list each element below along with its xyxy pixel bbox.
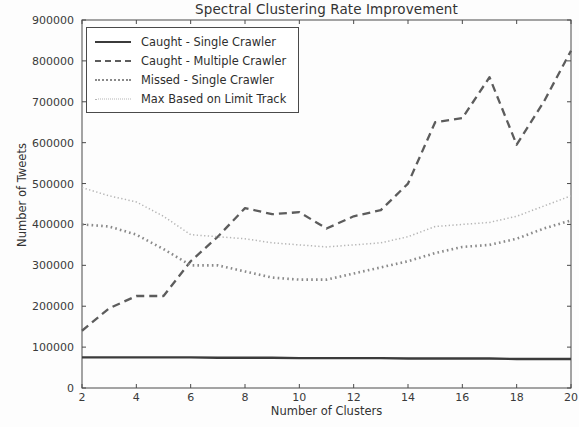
- legend-label: Missed - Single Crawler: [141, 73, 274, 87]
- legend-item: Max Based on Limit Track: [93, 89, 292, 108]
- chart-legend: Caught - Single CrawlerCaught - Multiple…: [86, 27, 299, 113]
- series-line: [82, 357, 571, 359]
- legend-line-sample-icon: [93, 92, 133, 106]
- legend-line-sample-icon: [93, 35, 133, 49]
- legend-label: Caught - Multiple Crawler: [141, 54, 286, 68]
- legend-line-sample-icon: [93, 73, 133, 87]
- legend-item: Caught - Multiple Crawler: [93, 51, 292, 70]
- legend-item: Missed - Single Crawler: [93, 70, 292, 89]
- legend-label: Caught - Single Crawler: [141, 35, 276, 49]
- legend-line-sample-icon: [93, 54, 133, 68]
- legend-item: Caught - Single Crawler: [93, 32, 292, 51]
- legend-label: Max Based on Limit Track: [141, 92, 286, 106]
- series-line: [82, 188, 571, 247]
- chart-figure: Spectral Clustering Rate Improvement Num…: [0, 0, 579, 427]
